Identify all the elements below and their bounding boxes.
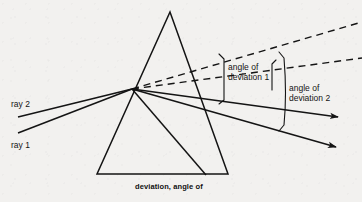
deviation-angle-diagram: ray 2 ray 1 angle of deviation 1 angle o… [0, 0, 362, 202]
angle-of-deviation-2-arc [279, 52, 286, 131]
angle-of-deviation-2-label-line2: deviation 2 [289, 93, 330, 104]
ray-1-label: ray 1 [11, 140, 30, 151]
ray-2-label: ray 2 [11, 99, 30, 110]
angle-of-deviation-1-label-line1: angle of [228, 62, 258, 73]
incident-ray-2 [18, 89, 132, 117]
internal-ray [132, 89, 206, 175]
angle-of-deviation-1-arc [219, 54, 224, 104]
figure-caption: deviation, angle of [135, 182, 203, 191]
incident-ray-1 [18, 89, 132, 133]
angle-of-deviation-2-label-line1: angle of [289, 83, 319, 94]
angle-of-deviation-1-label-line2: deviation 1 [228, 72, 269, 83]
angle-of-deviation-1-arc-right [272, 60, 276, 90]
